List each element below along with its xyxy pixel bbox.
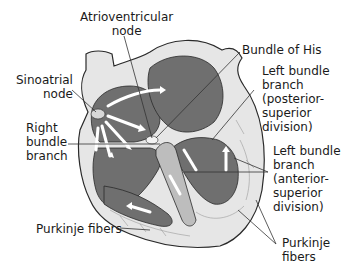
label-av-node: Atrioventricular node: [80, 10, 173, 38]
label-left-bundle-anterior: Left bundle branch (anterior- superior d…: [273, 144, 341, 214]
label-purkinje-fibers-right: Purkinje fibers: [282, 236, 330, 264]
label-left-bundle-posterior: Left bundle branch (posterior- superior …: [262, 64, 330, 134]
label-purkinje-fibers-left: Purkinje fibers: [36, 222, 122, 236]
label-right-bundle-branch: Right bundle branch: [26, 121, 68, 163]
sa-node: [91, 109, 105, 119]
label-bundle-of-his: Bundle of His: [242, 43, 322, 57]
label-sa-node: Sinoatrial node: [16, 73, 73, 101]
